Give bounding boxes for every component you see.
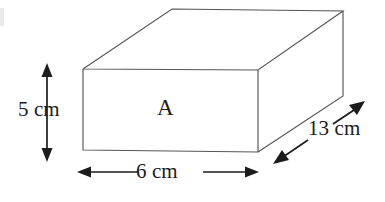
front-face-label: A (157, 96, 174, 119)
width-dimension-label: 6 cm (136, 161, 178, 182)
height-dimension-label: 5 cm (18, 99, 60, 120)
cuboid-diagram: 5 cm 6 cm 13 cm A (0, 0, 385, 202)
scan-artifact (0, 8, 4, 26)
depth-dimension-label: 13 cm (308, 118, 360, 139)
